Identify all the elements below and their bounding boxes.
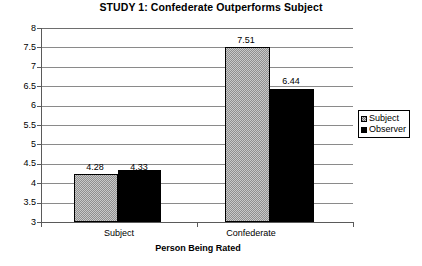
x-axis-line [41,222,354,223]
chart-container: STUDY 1: Confederate Outperforms Subject… [0,0,422,266]
plot-area [41,28,353,222]
bar-confederate-observer[interactable] [270,89,314,223]
y-axis-label: 5 [6,140,36,149]
x-axis-title: Person Being Rated [0,243,409,253]
legend-label: Subject [369,114,399,123]
y-axis-label: 3 [6,218,36,227]
y-axis-label: 6 [6,101,36,110]
y-axis-label: 6.5 [6,82,36,91]
y-axis-label: 7 [6,62,36,71]
data-label-subject-subject: 4.28 [75,163,115,172]
chart-legend: Subject Observer [358,110,410,138]
gridline [41,28,353,29]
y-axis-label: 5.5 [6,121,36,130]
data-label-confederate-observer: 6.44 [271,77,311,86]
x-axis-category-subject: Subject [79,228,159,238]
data-label-confederate-subject: 7.51 [226,36,266,45]
legend-label: Observer [369,125,406,134]
y-axis-label: 4 [6,179,36,188]
gridline [41,86,353,87]
y-axis-label: 7.5 [6,43,36,52]
data-label-subject-observer: 4.33 [119,163,159,172]
bar-subject-subject[interactable] [74,174,118,222]
y-axis-label: 3.5 [6,198,36,207]
y-axis-label: 4.5 [6,159,36,168]
gridline [41,47,353,48]
x-axis-tick [197,223,198,227]
x-axis-tick [353,223,354,227]
x-axis-tick [41,223,42,227]
black-swatch-icon [361,127,367,133]
chart-title: STUDY 1: Confederate Outperforms Subject [0,1,422,14]
bar-subject-observer[interactable] [118,170,161,222]
y-axis-line [41,28,42,223]
legend-item-observer[interactable]: Observer [361,124,406,135]
x-axis-category-confederate: Confederate [211,228,291,238]
bar-confederate-subject[interactable] [225,47,270,222]
checkered-swatch-icon [361,116,367,122]
y-axis-label: 8 [6,24,36,33]
legend-item-subject[interactable]: Subject [361,113,406,124]
gridline [41,67,353,68]
